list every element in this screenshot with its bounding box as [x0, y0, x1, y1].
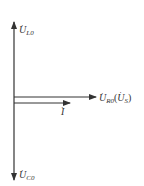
label-I: ·I	[61, 107, 64, 117]
label-UR0: ·UR0(·US)	[99, 93, 131, 106]
phasor-dot-icon: ·	[61, 103, 64, 113]
phasor-dot-icon: ·	[101, 89, 104, 99]
label-UC0: ·UC0	[19, 170, 34, 183]
phasor-dot-icon: ·	[21, 21, 24, 31]
phasor-dot-icon: ·	[119, 88, 122, 98]
phasor-dot-icon: ·	[21, 166, 24, 176]
label-UL0: ·UL0	[19, 25, 34, 38]
